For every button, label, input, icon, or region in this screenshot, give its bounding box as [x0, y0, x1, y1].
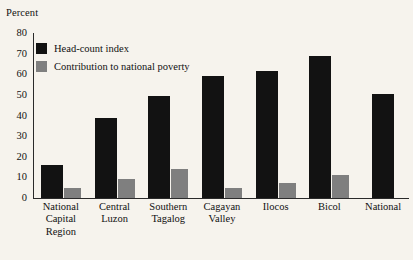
bar-head-count-index [95, 118, 117, 198]
legend-item: Contribution to national poverty [36, 59, 190, 74]
x-axis-category-label: Ilocos [249, 201, 303, 213]
y-axis-tick-label: 20 [5, 152, 27, 163]
x-axis-label-line: Ilocos [249, 201, 303, 213]
x-axis-label-line: National [34, 201, 88, 213]
x-axis-category-label: CentralLuzon [88, 201, 142, 226]
bar-contribution-to-national-poverty [279, 183, 296, 198]
bar-contribution-to-national-poverty [332, 175, 349, 198]
bar-head-count-index [256, 71, 278, 198]
x-axis-label-line: Bicol [303, 201, 357, 213]
bar-head-count-index [372, 94, 394, 198]
y-axis-tick-label: 60 [5, 69, 27, 80]
y-axis-tick-label: 80 [5, 28, 27, 39]
bar-group [303, 33, 357, 198]
bar-head-count-index [202, 76, 224, 198]
legend-item: Head-count index [36, 41, 190, 56]
bar-contribution-to-national-poverty [225, 188, 242, 198]
bar-group [249, 33, 303, 198]
x-axis-line [33, 198, 409, 199]
x-axis-category-label: Bicol [303, 201, 357, 213]
x-axis-category-label: National [356, 201, 410, 213]
legend-swatch-icon [36, 61, 47, 72]
legend-label: Head-count index [54, 43, 129, 54]
bar-chart: Percent 01020304050607080 NationalCapita… [0, 0, 413, 260]
x-axis-label-line: Tagalog [141, 213, 195, 225]
y-axis-tick-label: 30 [5, 131, 27, 142]
x-axis-label-line: Region [34, 226, 88, 238]
x-axis-label-line: Central [88, 201, 142, 213]
x-axis-category-label: CagayanValley [195, 201, 249, 226]
bar-head-count-index [309, 56, 331, 198]
legend-swatch-icon [36, 43, 47, 54]
y-axis-tick-label: 50 [5, 90, 27, 101]
x-axis-label-line: Capital [34, 213, 88, 225]
x-axis-label-line: Southern [141, 201, 195, 213]
y-axis-tick-label: 40 [5, 111, 27, 122]
x-axis-label-line: National [356, 201, 410, 213]
x-axis-labels: NationalCapitalRegionCentralLuzonSouther… [34, 201, 410, 257]
x-axis-label-line: Cagayan [195, 201, 249, 213]
legend-label: Contribution to national poverty [54, 61, 190, 72]
y-axis-tick-label: 70 [5, 49, 27, 60]
chart-legend: Head-count indexContribution to national… [36, 41, 190, 77]
y-axis-title: Percent [6, 7, 38, 19]
x-axis-category-label: SouthernTagalog [141, 201, 195, 226]
bar-group [195, 33, 249, 198]
bar-contribution-to-national-poverty [171, 169, 188, 198]
bar-contribution-to-national-poverty [118, 179, 135, 198]
y-axis-tick-label: 10 [5, 172, 27, 183]
bar-head-count-index [41, 165, 63, 198]
x-axis-category-label: NationalCapitalRegion [34, 201, 88, 238]
y-axis-tick-label: 0 [5, 193, 27, 204]
bar-contribution-to-national-poverty [64, 188, 81, 198]
bar-group [356, 33, 410, 198]
x-axis-label-line: Valley [195, 213, 249, 225]
x-axis-label-line: Luzon [88, 213, 142, 225]
bar-head-count-index [148, 96, 170, 198]
